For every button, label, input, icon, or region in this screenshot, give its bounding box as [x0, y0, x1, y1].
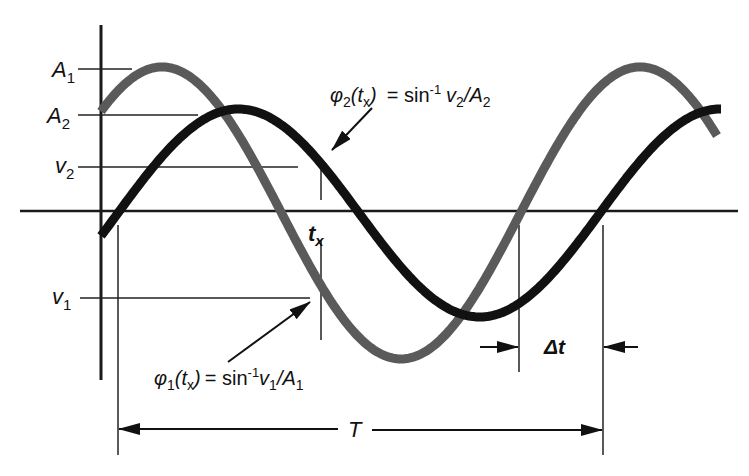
phi1-formula: φ1(tx)= sin-1v1/A1 — [154, 365, 304, 393]
phi2-formula: φ2(tx)= sin-1v2/A2 — [330, 82, 491, 110]
label-period: T — [348, 417, 363, 442]
label-tx: tx — [308, 221, 324, 249]
label-A2: A2 — [45, 103, 70, 132]
label-v2: v2 — [55, 153, 74, 182]
wave-v2-black — [101, 109, 721, 317]
label-v1: v1 — [52, 284, 71, 313]
wave-v1-grey — [101, 67, 717, 359]
phi1-arrow — [228, 302, 310, 362]
label-delta-t: Δt — [543, 335, 566, 358]
phase-diagram: A1 A2 v2 v1 tx φ2(tx)= sin-1v2/A2 φ1(tx)… — [0, 0, 749, 476]
phi2-arrow — [332, 108, 372, 150]
label-A1: A1 — [50, 57, 75, 86]
